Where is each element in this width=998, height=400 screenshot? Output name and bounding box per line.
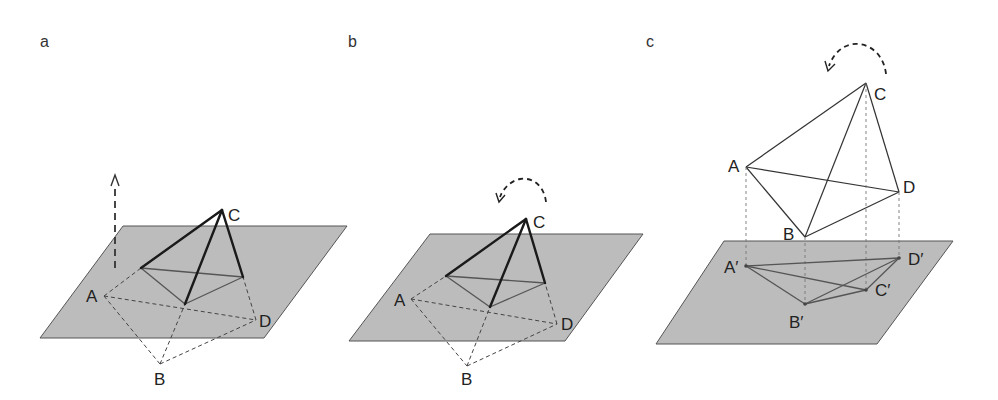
panel-a: a C A D B bbox=[40, 33, 347, 389]
rotation-arrow-icon bbox=[496, 179, 546, 202]
vertex-label-a: A bbox=[394, 291, 406, 310]
vertex-label-d: D bbox=[259, 312, 271, 331]
panel-label-c: c bbox=[646, 33, 654, 50]
vertex-label-c: C bbox=[228, 206, 240, 225]
projection-label-b-prime: B′ bbox=[789, 313, 804, 332]
vertex-label-b: B bbox=[783, 225, 794, 244]
panel-b: b C A D B bbox=[348, 33, 643, 389]
panel-c: c bbox=[646, 33, 953, 344]
tetrahedron-projection-figure: a C A D B bbox=[0, 0, 998, 400]
vertex-label-b: B bbox=[461, 370, 472, 389]
vertex-label-a: A bbox=[86, 287, 98, 306]
projection-label-c-prime: C′ bbox=[875, 281, 890, 300]
rotation-arrow-icon bbox=[825, 44, 886, 74]
tetrahedron bbox=[746, 83, 899, 237]
panel-label-a: a bbox=[40, 33, 49, 50]
vertex-label-a: A bbox=[728, 157, 740, 176]
panel-label-b: b bbox=[348, 33, 357, 50]
projection-label-d-prime: D′ bbox=[908, 250, 923, 269]
vertex-label-d: D bbox=[903, 178, 915, 197]
vertex-label-d: D bbox=[561, 315, 573, 334]
projection-plane bbox=[349, 234, 643, 341]
vertex-label-b: B bbox=[154, 370, 165, 389]
vertex-label-c: C bbox=[874, 85, 886, 104]
vertex-label-c: C bbox=[533, 213, 545, 232]
projection-label-a-prime: A′ bbox=[724, 258, 739, 277]
